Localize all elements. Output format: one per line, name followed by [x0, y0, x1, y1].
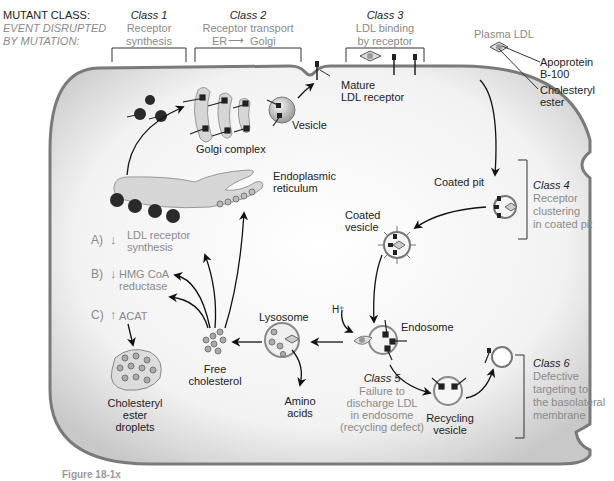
class-3-line1: LDL binding [350, 22, 420, 35]
endosome-label: Endosome [401, 321, 454, 334]
reg-b-line2: reductase [119, 280, 167, 293]
mutant-class-label: MUTANT CLASS: [3, 9, 90, 22]
event-label-1: EVENT DISRUPTED [3, 22, 106, 35]
class-3-line2: by receptor [350, 35, 420, 48]
recycling-label-2: vesicle [420, 424, 480, 437]
recycling-vesicle [434, 377, 462, 405]
lysosome-label: Lysosome [259, 311, 309, 324]
apoprotein-label-2: B-100 [540, 68, 569, 81]
coated-vesicle-label-2: vesicle [345, 221, 379, 234]
down-arrow-icon: ↓ [110, 267, 117, 280]
arrow-right-icon: ⟶ [228, 34, 244, 47]
class-1-line2: synthesis [119, 35, 179, 48]
class-5-title: Class 5 [352, 372, 412, 385]
class-4-title: Class 4 [533, 179, 570, 192]
plasma-ldl-label: Plasma LDL [474, 28, 534, 41]
class-3-title: Class 3 [365, 9, 405, 22]
figure-caption: Figure 18-1x [62, 469, 121, 480]
class-2-er: ER [212, 35, 227, 48]
vesicle-label: Vesicle [292, 119, 327, 132]
class-4-line3: in coated pit [533, 218, 592, 231]
er-label-2: reticulum [273, 182, 318, 195]
class-1-title: Class 1 [129, 9, 169, 22]
cholesteryl-label-2: ester [540, 96, 564, 109]
event-label-2: BY MUTATION: [3, 35, 79, 48]
reg-c-letter: C) [91, 309, 104, 322]
class-6-line4: membrane [533, 409, 586, 422]
reg-c-line1: ACAT [119, 310, 148, 323]
class-2-title: Class 2 [228, 9, 268, 22]
class-5-line4: (recycling defect) [332, 421, 432, 434]
class-1-line1: Receptor [119, 22, 179, 35]
h-plus-label: H⁺ [332, 303, 344, 316]
class-2-golgi: Golgi [250, 35, 276, 48]
class-4-line1: Receptor [533, 192, 578, 205]
reg-b-letter: B) [91, 268, 103, 281]
reg-a-line2: synthesis [127, 241, 173, 254]
class-6-title: Class 6 [533, 357, 570, 370]
class-6-line3: the basolateral [533, 396, 605, 409]
up-arrow-icon: ↑ [110, 308, 117, 321]
class-6-line1: Defective [533, 370, 579, 383]
class-4-line2: clustering [533, 205, 580, 218]
class-2-line1: Receptor transport [198, 22, 298, 35]
coated-pit-label: Coated pit [434, 176, 484, 189]
golgi-label: Golgi complex [196, 143, 266, 156]
class-6-line2: targeting to [533, 383, 588, 396]
droplets-label-3: droplets [100, 421, 170, 434]
reg-a-letter: A) [91, 234, 103, 247]
down-arrow-icon: ↓ [110, 233, 117, 246]
free-chol-label-2: cholesterol [185, 375, 245, 388]
amino-label-2: acids [280, 407, 320, 420]
mature-label-2: LDL receptor [341, 91, 404, 104]
